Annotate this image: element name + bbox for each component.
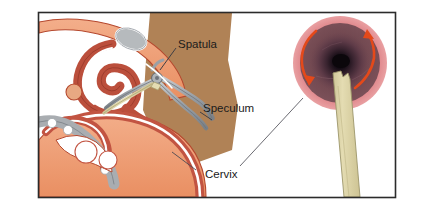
vertebral-disc bbox=[47, 118, 56, 127]
figure-screenshot: A B bbox=[0, 0, 432, 208]
pelvic-void bbox=[75, 141, 97, 163]
callout-label-speculum: Speculum bbox=[203, 102, 254, 114]
frame-contents: Spatula Speculum Cervix bbox=[39, 13, 395, 197]
speculum-pivot-screw bbox=[155, 76, 159, 80]
callout-label-spatula: Spatula bbox=[178, 38, 218, 50]
vertebral-disc bbox=[63, 125, 72, 134]
pelvic-void bbox=[99, 151, 117, 169]
cervix-os-center bbox=[332, 54, 350, 68]
ovary bbox=[66, 84, 82, 100]
medical-illustration: Spatula Speculum Cervix bbox=[0, 0, 432, 208]
callout-label-cervix: Cervix bbox=[205, 168, 238, 180]
